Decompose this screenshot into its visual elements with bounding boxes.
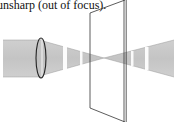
highlight-stripe (145, 47, 149, 70)
convex-lens (36, 38, 46, 78)
incoming-beam (3, 40, 41, 77)
highlight-stripe (63, 44, 67, 72)
diverging-cone (104, 40, 174, 77)
converging-cone (43, 41, 104, 75)
optics-diagram (0, 0, 174, 122)
highlight-stripe (131, 51, 134, 66)
highlight-stripe (80, 49, 83, 67)
